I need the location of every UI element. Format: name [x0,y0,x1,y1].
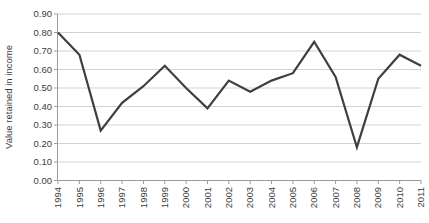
x-tick-label: 2009 [372,187,383,208]
y-tick-label: 0.40 [34,101,53,112]
x-tick-label: 2000 [180,187,191,208]
y-tick-label: 0.80 [34,27,53,38]
y-tick-label: 0.50 [34,82,53,93]
x-tick-label: 1999 [159,187,170,208]
gridlines [58,14,422,162]
x-tick-label: 2008 [351,187,362,208]
data-series-line [58,33,421,148]
x-tick-label: 1994 [52,187,63,208]
x-tick-label: 2002 [223,187,234,208]
y-tick-label: 0.20 [34,138,53,149]
y-tick-label: 0.00 [34,175,53,186]
x-tick-label: 2001 [202,187,213,208]
x-tick-labels: 1994199519961997199819992000200120022003… [52,187,426,208]
line-chart: 0.000.100.200.300.400.500.600.700.800.90… [0,0,429,223]
x-tick-label: 2003 [244,187,255,208]
x-tick-label: 2005 [287,187,298,208]
y-tick-labels: 0.000.100.200.300.400.500.600.700.800.90 [34,8,53,186]
y-tick-label: 0.30 [34,119,53,130]
x-tick-label: 2004 [266,187,277,208]
axes [54,14,421,184]
chart-canvas: 0.000.100.200.300.400.500.600.700.800.90… [0,0,429,223]
x-tick-label: 1996 [95,187,106,208]
x-tick-label: 2011 [415,187,426,207]
y-tick-label: 0.10 [34,156,53,167]
x-tick-label: 1998 [138,187,149,208]
x-tick-label: 1997 [116,187,127,208]
y-tick-label: 0.70 [34,45,53,56]
x-tick-label: 2010 [394,187,405,208]
y-tick-label: 0.60 [34,64,53,75]
x-tick-label: 2007 [330,187,341,208]
x-tick-label: 1995 [74,187,85,208]
x-tick-label: 2006 [308,187,319,208]
y-axis-title: Value retained in income [3,45,14,149]
y-tick-label: 0.90 [34,8,53,19]
